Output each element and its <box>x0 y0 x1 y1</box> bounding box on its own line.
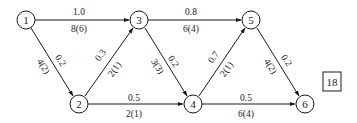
node-6-label: 6 <box>302 98 308 110</box>
node-2-label: 2 <box>76 98 82 110</box>
node-5-label: 5 <box>248 14 254 26</box>
answer-box-label: 18 <box>327 76 339 88</box>
edge-4-6-cost: 0.5 <box>240 93 252 103</box>
edge-2-3 <box>85 28 133 96</box>
node-4-label: 4 <box>190 98 196 110</box>
edge-3-4-cost: 0.2 <box>166 54 181 70</box>
edge-1-3-cost: 1.0 <box>73 7 85 17</box>
edge-2-3-cost: 0.3 <box>93 47 108 63</box>
node-1: 1 <box>17 11 35 29</box>
edge-3-5-capacity: 6(4) <box>183 24 199 35</box>
edge-3-5-cost: 0.8 <box>185 7 197 17</box>
network-svg: 1 2 3 4 5 6 <box>0 0 357 123</box>
node-2: 2 <box>70 95 88 113</box>
edge-1-3-capacity: 8(6) <box>71 24 87 35</box>
node-3-label: 3 <box>136 14 142 26</box>
network-diagram: 1 2 3 4 5 6 <box>0 0 357 123</box>
edge-4-5 <box>199 28 245 96</box>
node-6: 6 <box>296 95 314 113</box>
edge-5-6-cost: 0.2 <box>279 53 294 69</box>
edge-2-4-capacity: 2(1) <box>126 109 142 120</box>
node-4: 4 <box>184 95 202 113</box>
edge-4-6-capacity: 6(4) <box>238 109 254 120</box>
edge-2-4-cost: 0.5 <box>128 93 140 103</box>
edge-4-5-cost: 0.7 <box>206 49 221 65</box>
edge-4-5-capacity: 2(1) <box>218 60 236 79</box>
edge-1-2-capacity: 4(2) <box>34 57 52 76</box>
node-5: 5 <box>242 11 260 29</box>
node-3: 3 <box>130 11 148 29</box>
node-1-label: 1 <box>23 14 29 26</box>
answer-box: 18 <box>323 72 341 91</box>
edge-1-2-cost: 0.2 <box>53 53 68 69</box>
edge-3-4-capacity: 3(3) <box>148 57 166 76</box>
